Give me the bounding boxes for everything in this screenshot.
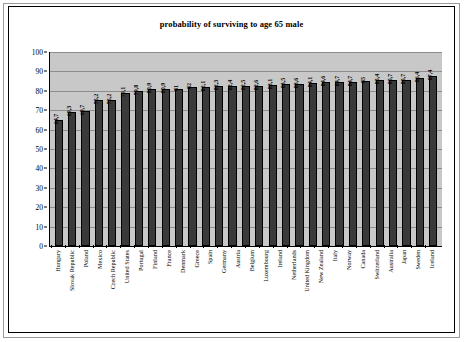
bar[interactable]: 82,5 — [242, 86, 250, 246]
bar[interactable]: 85 — [362, 81, 370, 246]
bar[interactable]: 86,4 — [416, 78, 424, 246]
bar[interactable]: 82,6 — [255, 86, 263, 246]
x-axis-tick-mark — [384, 245, 385, 248]
bar[interactable]: 69,3 — [68, 112, 76, 246]
x-axis-tick-mark — [93, 245, 94, 248]
bar-slot: 83,5 — [279, 52, 292, 246]
x-axis-label-slot: Mexico — [93, 248, 107, 334]
bar[interactable]: 87,4 — [429, 76, 437, 246]
bar[interactable]: 84,6 — [322, 82, 330, 246]
bar-slot: 75,2 — [106, 52, 119, 246]
bar-slot: 82,5 — [239, 52, 252, 246]
bar-slot: 82 — [186, 52, 199, 246]
bar[interactable]: 84,7 — [349, 82, 357, 246]
bar-value-label: 83,5 — [280, 78, 286, 89]
bar-slot: 82,1 — [199, 52, 212, 246]
bar[interactable]: 80,9 — [162, 89, 170, 246]
bar-slot: 80,9 — [159, 52, 172, 246]
bar[interactable]: 85,7 — [402, 80, 410, 246]
x-axis-category-label: Norway — [346, 250, 352, 270]
x-axis-tick-mark — [370, 245, 371, 248]
bar-slot: 80,9 — [146, 52, 159, 246]
chart-title: probability of surviving to age 65 male — [9, 19, 454, 29]
bar-slot: 85,7 — [400, 52, 413, 246]
bar[interactable]: 69,7 — [81, 111, 89, 246]
x-axis-category-label: Luxembourg — [263, 250, 269, 282]
x-axis-category-label: Slovak Republic — [69, 250, 75, 291]
bar-value-label: 85 — [360, 77, 366, 83]
bar-slot: 75,2 — [92, 52, 105, 246]
x-axis-category-label: Austria — [235, 250, 241, 268]
x-axis-label-slot: Portugal — [134, 248, 148, 334]
bar-slot: 85 — [360, 52, 373, 246]
x-axis-label-slot: Iceland — [425, 248, 439, 334]
x-axis-category-label: Canada — [360, 250, 366, 269]
bar-value-label: 84,1 — [307, 77, 313, 88]
bar-slot: 69,3 — [65, 52, 78, 246]
x-axis-tick-mark — [79, 245, 80, 248]
x-axis-label-slot: Norway — [342, 248, 356, 334]
bar[interactable]: 82 — [188, 87, 196, 246]
bar-slot: 82,4 — [226, 52, 239, 246]
x-axis-tick-mark — [425, 245, 426, 248]
bar-slot: 83,6 — [293, 52, 306, 246]
y-axis-tick-label: 10 — [36, 222, 44, 231]
bar-value-label: 83,6 — [293, 78, 299, 89]
bar-value-label: 82,1 — [200, 80, 206, 91]
x-axis-tick-mark — [273, 245, 274, 248]
x-axis-category-label: France — [166, 250, 172, 267]
bar[interactable]: 64,7 — [55, 120, 63, 246]
bar[interactable]: 83,6 — [295, 84, 303, 246]
bar[interactable]: 84,7 — [335, 82, 343, 246]
bar-slot: 79,8 — [132, 52, 145, 246]
y-axis-tick-mark — [44, 187, 47, 188]
bar-slot: 84,1 — [306, 52, 319, 246]
y-axis-tick-mark — [44, 207, 47, 208]
y-axis-tick-mark — [44, 110, 47, 111]
bar[interactable]: 82,3 — [215, 86, 223, 246]
x-axis-label-slot: Greece — [190, 248, 204, 334]
x-axis-label-slot: Luxembourg — [259, 248, 273, 334]
y-axis-tick-mark — [44, 90, 47, 91]
x-axis-tick-mark — [259, 245, 260, 248]
bar[interactable]: 85,7 — [389, 80, 397, 246]
bar[interactable]: 82,4 — [228, 86, 236, 246]
chart-object-frame[interactable]: probability of surviving to age 65 male … — [8, 6, 455, 333]
bar-value-label: 64,7 — [53, 114, 59, 125]
x-axis-tick-mark — [245, 245, 246, 248]
bar-value-label: 82 — [186, 83, 192, 89]
bar[interactable]: 75,2 — [95, 100, 103, 246]
bar-slot: 85,7 — [386, 52, 399, 246]
bar[interactable]: 81 — [175, 89, 183, 246]
bar[interactable]: 85,4 — [376, 80, 384, 246]
y-axis-tick-mark — [44, 168, 47, 169]
bar[interactable]: 82,1 — [202, 87, 210, 246]
x-axis-tick-mark — [120, 245, 121, 248]
bar[interactable]: 75,2 — [108, 100, 116, 246]
x-axis-category-label: Hungary — [55, 250, 61, 272]
x-axis-labels: HungarySlovak RepublicPolandMexicoCzech … — [49, 248, 441, 334]
x-axis-label-slot: France — [162, 248, 176, 334]
x-axis-label-slot: Finland — [148, 248, 162, 334]
x-axis-label-slot: Austria — [231, 248, 245, 334]
x-axis-tick-mark — [190, 245, 191, 248]
y-axis-tick-mark — [44, 52, 47, 53]
x-axis-tick-mark — [342, 245, 343, 248]
x-axis-label-slot: Switzerland — [370, 248, 384, 334]
bar[interactable]: 79,1 — [121, 93, 129, 246]
y-axis-tick-mark — [44, 71, 47, 72]
bar-value-label: 75,2 — [106, 94, 112, 105]
bar[interactable]: 80,9 — [148, 89, 156, 246]
bar[interactable]: 84,1 — [309, 83, 317, 246]
x-axis-label-slot: Slovak Republic — [65, 248, 79, 334]
bar[interactable]: 79,8 — [135, 91, 143, 246]
x-axis-category-label: United States — [124, 250, 130, 283]
bar-slot: 82,6 — [253, 52, 266, 246]
x-axis-label-slot: Denmark — [176, 248, 190, 334]
x-axis-category-label: United Kingdom — [304, 250, 310, 292]
bar[interactable]: 83,5 — [282, 84, 290, 246]
x-axis-label-slot: Canada — [356, 248, 370, 334]
x-axis-label-slot: New Zealand — [314, 248, 328, 334]
bar[interactable]: 83,1 — [269, 85, 277, 246]
bar-slot: 85,4 — [373, 52, 386, 246]
